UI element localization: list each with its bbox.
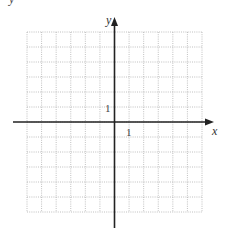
coordinate-plane: x y 1 1: [0, 0, 228, 232]
x-tick-label-1: 1: [126, 126, 132, 138]
x-axis-label: x: [211, 124, 218, 138]
y-tick-label-1: 1: [105, 102, 111, 114]
y-axis-label: y: [105, 13, 112, 27]
y-axis-arrow-icon: [111, 17, 118, 26]
